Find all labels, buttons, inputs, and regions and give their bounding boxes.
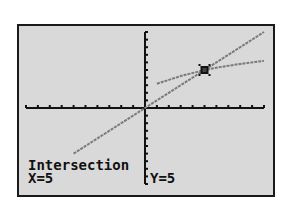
- graph-line-y1: [74, 32, 264, 154]
- y-readout: Y=5: [150, 172, 175, 185]
- x-readout: X=5: [28, 172, 53, 185]
